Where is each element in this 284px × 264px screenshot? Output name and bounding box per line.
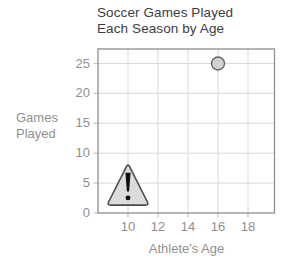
y-tick-label-25: 25: [60, 56, 90, 72]
x-tick-label-14: 14: [173, 219, 203, 235]
scatter-plot-figure: Soccer Games Played Each Season by Age G…: [0, 0, 284, 264]
y-tick-label-5: 5: [60, 175, 90, 191]
y-tick-label-20: 20: [60, 85, 90, 101]
warning-exclamation-dot: [126, 196, 131, 201]
x-tick-label-10: 10: [113, 219, 143, 235]
y-tick-label-15: 15: [60, 115, 90, 131]
x-tick-label-16: 16: [203, 219, 233, 235]
y-tick-label-0: 0: [60, 205, 90, 221]
x-axis-label: Athlete's Age: [98, 241, 275, 256]
data-point-0: [212, 57, 225, 70]
x-tick-label-12: 12: [143, 219, 173, 235]
y-tick-label-10: 10: [60, 145, 90, 161]
x-tick-label-18: 18: [233, 219, 263, 235]
